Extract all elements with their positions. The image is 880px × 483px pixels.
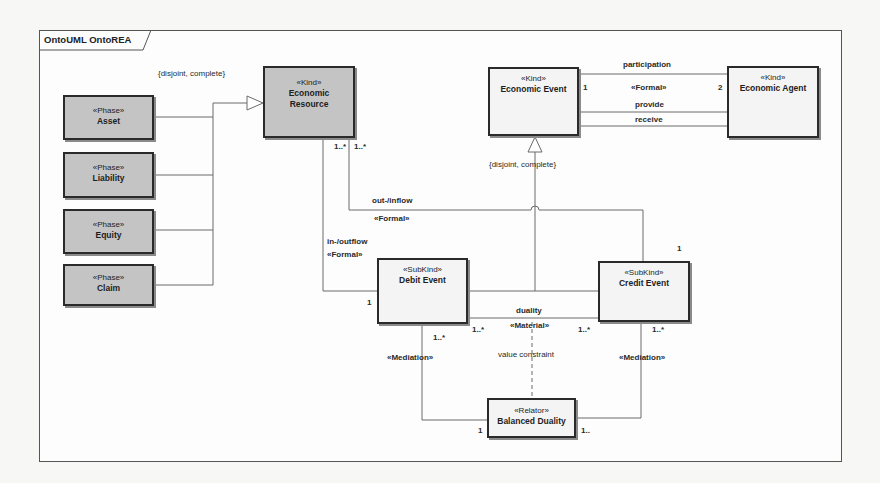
class-name: Credit Event: [600, 278, 688, 289]
class-credit-event[interactable]: «SubKind» Credit Event: [598, 261, 690, 322]
class-name: Debit Event: [379, 275, 466, 286]
stereotype-label: «Kind»: [490, 73, 577, 84]
class-name: Asset: [65, 116, 152, 127]
in-outflow-stereotype: «Formal»: [327, 250, 363, 259]
mediation-debit-mult-debit: 1..*: [433, 333, 445, 342]
out-inflow-mult-credit: 1: [677, 244, 681, 253]
frame-title: OntoUML OntoREA: [39, 30, 151, 50]
class-economic-event[interactable]: «Kind» Economic Event: [488, 67, 579, 136]
stereotype-label: «SubKind»: [379, 264, 466, 275]
resource-mult-1: 1..*: [334, 142, 346, 151]
out-inflow-stereotype: «Formal»: [374, 214, 410, 223]
class-name: Liability: [65, 173, 152, 184]
stereotype-label: «Phase»: [65, 105, 152, 116]
duality-mult-credit: 1..*: [578, 325, 590, 334]
class-name: Balanced Duality: [489, 416, 574, 427]
class-economic-agent[interactable]: «Kind» Economic Agent: [727, 66, 819, 138]
value-constraint-label: value constraint: [498, 350, 554, 359]
class-name: Claim: [65, 283, 152, 294]
class-liability[interactable]: «Phase» Liability: [63, 152, 154, 198]
duality-label: duality: [516, 306, 542, 315]
participation-mult-agent: 2: [718, 83, 722, 92]
class-name: Economic Event: [490, 84, 577, 95]
class-equity[interactable]: «Phase» Equity: [63, 209, 154, 254]
mediation-credit-mult-credit: 1..*: [652, 325, 664, 334]
class-name: Equity: [65, 230, 152, 241]
stereotype-label: «SubKind»: [600, 267, 688, 278]
duality-stereotype: «Material»: [510, 321, 549, 330]
out-inflow-label: out-/inflow: [372, 196, 412, 205]
in-outflow-label: in-/outflow: [327, 237, 367, 246]
ontouml-diagram: OntoUML OntoREA «Phase» Asset «Phase» Li…: [0, 0, 880, 483]
in-outflow-mult-debit: 1: [367, 298, 371, 307]
stereotype-label: «Relator»: [489, 405, 574, 416]
class-debit-event[interactable]: «SubKind» Debit Event: [377, 258, 468, 324]
class-name: Economic Resource: [279, 88, 339, 110]
genset-label-event: {disjoint, complete}: [489, 160, 556, 169]
mediation-credit-stereotype: «Mediation»: [619, 353, 665, 362]
mediation-credit-mult-relator: 1..: [581, 426, 590, 435]
mediation-debit-stereotype: «Mediation»: [387, 353, 433, 362]
resource-mult-2: 1..*: [354, 142, 366, 151]
class-name: Economic Agent: [729, 83, 817, 94]
genset-label-resource: {disjoint, complete}: [158, 69, 225, 78]
class-asset[interactable]: «Phase» Asset: [63, 95, 154, 140]
stereotype-label: «Kind»: [729, 72, 817, 83]
stereotype-label: «Phase»: [65, 219, 152, 230]
participation-stereotype: «Formal»: [631, 83, 667, 92]
duality-mult-debit: 1..*: [472, 325, 484, 334]
stereotype-label: «Phase»: [65, 162, 152, 173]
class-balanced-duality[interactable]: «Relator» Balanced Duality: [487, 398, 576, 438]
class-economic-resource[interactable]: «Kind» Economic Resource: [263, 66, 355, 138]
stereotype-label: «Phase»: [65, 272, 152, 283]
stereotype-label: «Kind»: [265, 77, 353, 88]
mediation-debit-mult-relator: 1: [478, 426, 482, 435]
participation-mult-event: 1: [583, 83, 587, 92]
participation-label: participation: [623, 60, 671, 69]
provide-label: provide: [635, 100, 664, 109]
receive-label: receive: [635, 115, 663, 124]
class-claim[interactable]: «Phase» Claim: [63, 264, 154, 306]
